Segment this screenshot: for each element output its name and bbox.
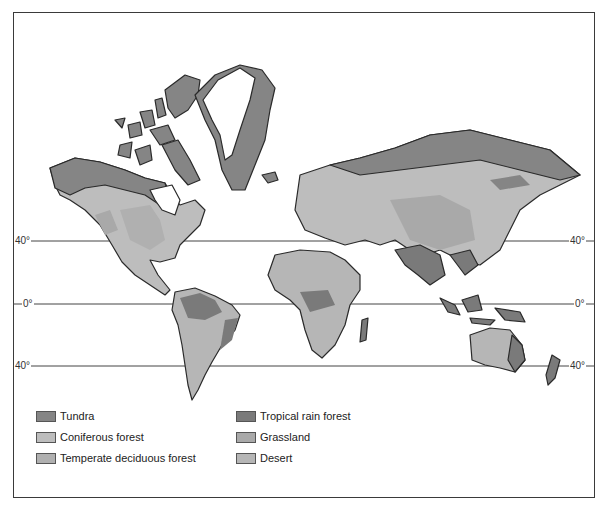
legend-item-desert: Desert xyxy=(236,452,292,464)
latitude-label-40n-left: 40° xyxy=(14,236,31,246)
swatch-coniferous xyxy=(36,432,56,443)
south-america xyxy=(172,288,240,400)
swatch-grassland xyxy=(236,432,256,443)
latitude-label-40s-left: 40° xyxy=(14,361,31,371)
swatch-desert xyxy=(236,453,256,464)
legend-label: Coniferous forest xyxy=(60,431,144,443)
madagascar xyxy=(360,318,368,342)
latitude-label-40n-right: 40° xyxy=(569,236,586,246)
latitude-label-40s-right: 40° xyxy=(569,361,586,371)
legend-label: Tropical rain forest xyxy=(260,410,351,422)
legend-label: Desert xyxy=(260,452,292,464)
legend-item-temperate: Temperate deciduous forest xyxy=(36,452,196,464)
greenland xyxy=(195,65,275,190)
legend-item-tropical: Tropical rain forest xyxy=(236,410,351,422)
swatch-tundra xyxy=(36,411,56,422)
maritime-southeast-asia xyxy=(440,295,525,325)
new-zealand xyxy=(546,355,560,385)
iceland xyxy=(262,172,278,183)
legend-item-grassland: Grassland xyxy=(236,431,310,443)
legend-label: Tundra xyxy=(60,410,94,422)
latitude-label-equator-left: 0° xyxy=(22,299,34,309)
legend-label: Temperate deciduous forest xyxy=(60,452,196,464)
legend-item-coniferous: Coniferous forest xyxy=(36,431,144,443)
legend-item-tundra: Tundra xyxy=(36,410,94,422)
legend-label: Grassland xyxy=(260,431,310,443)
latitude-label-equator-right: 0° xyxy=(574,299,586,309)
arctic-islands xyxy=(115,75,200,185)
swatch-tropical xyxy=(236,411,256,422)
swatch-temperate xyxy=(36,453,56,464)
australia xyxy=(470,328,525,372)
